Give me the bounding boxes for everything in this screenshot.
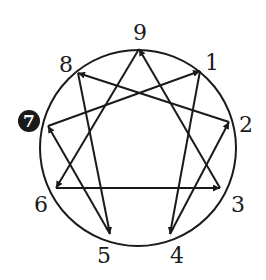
arrow-7-to-1 (48, 71, 200, 126)
point-label-6: 6 (34, 192, 48, 217)
arrow-4-to-2 (170, 122, 229, 234)
point-label-9: 9 (133, 20, 147, 45)
arrow-lines-group (48, 49, 229, 234)
arrow-8-to-5 (78, 73, 110, 234)
enneagram-circle (40, 50, 236, 246)
point-label-4: 4 (170, 243, 184, 268)
point-label-2: 2 (239, 112, 253, 137)
arrow-5-to-7 (48, 126, 110, 234)
point-label-5: 5 (97, 243, 111, 268)
point-label-3: 3 (231, 192, 245, 217)
point-label-8: 8 (59, 52, 73, 77)
point-label-1: 1 (205, 50, 219, 75)
point-label-7: 7 (23, 111, 35, 131)
arrow-1-to-4 (170, 71, 200, 234)
enneagram-diagram: 912345678 (0, 0, 266, 280)
